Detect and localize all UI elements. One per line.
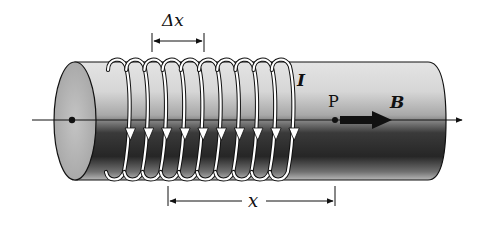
- current-label: I: [297, 70, 305, 90]
- delta-x-dimension: [152, 33, 204, 52]
- point-label: P: [328, 92, 339, 111]
- cylinder-end-face: [54, 62, 96, 180]
- axis-center-dot: [69, 117, 75, 123]
- solenoid-diagram: Δx I P B x: [0, 0, 492, 229]
- point-p-dot: [332, 117, 338, 123]
- field-label: B: [390, 92, 404, 112]
- delta-x-label: Δx: [162, 10, 184, 30]
- diagram-canvas: [0, 0, 492, 229]
- distance-label: x: [248, 190, 258, 211]
